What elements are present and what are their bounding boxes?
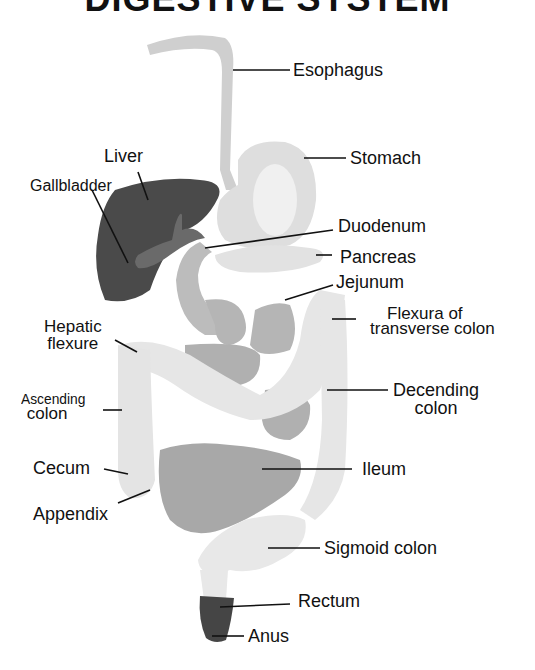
label-ascending-colon: Ascending colon xyxy=(21,391,91,421)
pancreas-shape xyxy=(215,245,323,272)
label-rectum: Rectum xyxy=(298,593,360,610)
label-sigmoid-colon: Sigmoid colon xyxy=(324,540,437,557)
label-liver: Liver xyxy=(104,148,143,165)
label-flexura-transverse-colon: Flexura of transverse colon xyxy=(370,306,495,336)
label-hepatic-line2: flexure xyxy=(44,335,102,352)
label-pancreas: Pancreas xyxy=(340,249,416,266)
label-gallbladder: Gallbladder xyxy=(30,177,112,194)
label-jejunum: Jejunum xyxy=(336,274,404,291)
label-hepatic-line1: Hepatic xyxy=(44,318,102,335)
label-anus: Anus xyxy=(248,628,289,645)
rectum-upper xyxy=(200,570,228,600)
label-hepatic-flexure: Hepatic flexure xyxy=(44,318,102,352)
stomach-inner xyxy=(253,164,297,236)
label-ascending-line2: colon xyxy=(3,406,91,421)
label-stomach: Stomach xyxy=(350,150,421,167)
label-decending-line2: colon xyxy=(393,399,479,417)
label-decending-colon: Decending colon xyxy=(393,381,479,417)
ascending-colon-shape xyxy=(118,345,155,498)
rectum-shape xyxy=(200,596,234,642)
esophagus-shape xyxy=(147,35,238,190)
label-ascending-line1: Ascending xyxy=(21,391,85,406)
label-flexura-line2: transverse colon xyxy=(370,321,495,336)
label-duodenum: Duodenum xyxy=(338,218,426,235)
label-appendix: Appendix xyxy=(33,506,108,523)
liver-shape xyxy=(96,179,219,302)
label-ileum: Ileum xyxy=(362,461,406,478)
label-cecum: Cecum xyxy=(33,460,90,477)
label-decending-line1: Decending xyxy=(393,381,479,399)
label-esophagus: Esophagus xyxy=(293,62,383,79)
